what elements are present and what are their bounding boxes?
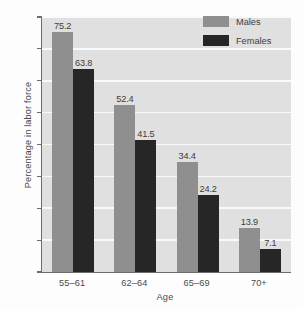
y-axis-tick (37, 176, 42, 177)
y-axis-tick (37, 16, 42, 17)
bar-females-3: 7.1 (260, 249, 281, 272)
bar-group: 13.97.1 (239, 17, 281, 272)
bar-males-1: 52.4 (114, 105, 135, 272)
x-axis-category-label: 65–69 (166, 278, 228, 288)
legend-label-males: Males (236, 17, 261, 27)
x-axis-category-label: 55–61 (41, 278, 103, 288)
bar-value-label: 63.8 (75, 58, 92, 68)
bar-group: 52.441.5 (114, 17, 156, 272)
bar-females-2: 24.2 (198, 195, 219, 272)
bar-males-2: 34.4 (177, 162, 198, 272)
x-axis-category-label: 62–64 (103, 278, 165, 288)
legend-item-males: Males (203, 16, 271, 27)
bar-value-label: 52.4 (116, 94, 133, 104)
plot-area: 0102030405060708075.263.852.441.534.424.… (41, 17, 291, 273)
bar-males-0: 75.2 (52, 32, 73, 272)
bar-value-label: 24.2 (199, 184, 216, 194)
bar-chart-figure: Percentage in labor force 01020304050607… (0, 0, 303, 310)
legend-swatch-females (203, 35, 229, 46)
x-axis-category-label: 70+ (228, 278, 290, 288)
bar-value-label: 41.5 (137, 129, 154, 139)
y-axis-tick (37, 240, 42, 241)
y-axis-title: Percentage in labor force (23, 45, 33, 225)
y-axis-tick (37, 112, 42, 113)
bar-males-3: 13.9 (239, 228, 260, 272)
bar-females-1: 41.5 (135, 140, 156, 272)
y-axis-tick (37, 144, 42, 145)
y-axis-tick (37, 271, 42, 272)
x-axis-title: Age (40, 292, 290, 302)
legend-swatch-males (203, 16, 229, 27)
bar-females-0: 63.8 (73, 69, 94, 272)
bar-value-label: 34.4 (178, 151, 195, 161)
bar-value-label: 75.2 (54, 21, 71, 31)
bar-group: 75.263.8 (52, 17, 94, 272)
legend-label-females: Females (236, 36, 271, 46)
chart-legend: Males Females (203, 16, 271, 54)
bar-value-label: 7.1 (264, 238, 276, 248)
y-axis-tick (37, 48, 42, 49)
bar-group: 34.424.2 (177, 17, 219, 272)
y-axis-tick (37, 80, 42, 81)
y-axis-tick (37, 208, 42, 209)
legend-item-females: Females (203, 35, 271, 46)
bar-value-label: 13.9 (241, 217, 258, 227)
